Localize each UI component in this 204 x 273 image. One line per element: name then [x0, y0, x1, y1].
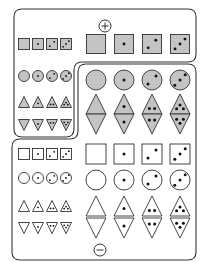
gray-small-circle-2-dots — [47, 71, 58, 82]
gray-small-tri-down-1-dots — [33, 120, 44, 131]
white-large-square-2-dots — [142, 144, 162, 164]
gray-large-tri-down-3-dots — [170, 114, 190, 134]
gray-large-circle-3-dots — [170, 70, 190, 90]
gray-small-tri-up-2-dots — [47, 97, 58, 108]
gray-large-circle-2-dots — [142, 70, 162, 90]
gray-large-circle-1-dots — [114, 70, 134, 90]
gray-small-tri-down-0-dots — [19, 120, 30, 131]
gray-large-tri-down-1-dots — [114, 114, 134, 134]
white-large-square-3-dots — [170, 144, 190, 164]
white-large-circle-1-dots — [114, 170, 134, 190]
gray-large-square-1-dots — [115, 35, 134, 54]
gray-large-tri-up-1-dots — [114, 94, 134, 114]
white-small-circle-3-dots — [61, 173, 72, 184]
white-large-square-0-dots — [86, 144, 106, 164]
minus-symbol-icon — [94, 244, 106, 256]
gray-small-square-2-dots — [47, 39, 58, 50]
white-small-tri-up-0-dots — [19, 201, 30, 212]
white-small-circle-2-dots — [47, 173, 58, 184]
gray-small-square-3-dots — [61, 39, 72, 50]
white-small-tri-up-3-dots — [61, 201, 72, 212]
white-large-tri-down-3-dots — [170, 218, 190, 238]
white-small-tri-down-1-dots — [33, 223, 44, 234]
gray-small-circle-0-dots — [19, 71, 30, 82]
white-large-circle-3-dots — [170, 170, 190, 190]
concept-diagram — [0, 0, 204, 273]
white-small-tri-down-0-dots — [19, 223, 30, 234]
white-small-tri-up-2-dots — [47, 201, 58, 212]
gray-large-square-0-dots — [87, 35, 106, 54]
white-small-tri-down-3-dots — [61, 223, 72, 234]
white-large-circle-2-dots — [142, 170, 162, 190]
white-large-tri-down-1-dots — [114, 218, 134, 238]
gray-small-tri-up-1-dots — [33, 97, 44, 108]
gray-small-tri-down-3-dots — [61, 120, 72, 131]
white-large-tri-down-2-dots — [142, 218, 162, 238]
white-small-square-3-dots — [61, 149, 72, 160]
gray-small-tri-up-3-dots — [61, 97, 72, 108]
gray-large-square-2-dots — [143, 35, 162, 54]
white-small-square-2-dots — [47, 149, 58, 160]
white-large-tri-up-2-dots — [142, 196, 162, 216]
gray-small-tri-up-0-dots — [19, 97, 30, 108]
shape-grid — [19, 35, 191, 239]
gray-small-circle-3-dots — [61, 71, 72, 82]
white-large-tri-down-0-dots — [86, 218, 106, 238]
gray-large-tri-down-0-dots — [86, 114, 106, 134]
white-small-square-1-dots — [33, 149, 44, 160]
white-large-square-1-dots — [114, 144, 134, 164]
white-small-square-0-dots — [19, 149, 30, 160]
white-large-circle-0-dots — [86, 170, 106, 190]
white-large-tri-up-3-dots — [170, 196, 190, 216]
gray-large-tri-up-0-dots — [86, 94, 106, 114]
white-large-tri-up-1-dots — [114, 196, 134, 216]
gray-large-tri-up-2-dots — [142, 94, 162, 114]
white-small-circle-0-dots — [19, 173, 30, 184]
white-large-tri-up-0-dots — [86, 196, 106, 216]
white-small-circle-1-dots — [33, 173, 44, 184]
gray-small-square-1-dots — [33, 39, 44, 50]
white-small-tri-down-2-dots — [47, 223, 58, 234]
gray-large-circle-0-dots — [86, 70, 106, 90]
gray-small-tri-down-2-dots — [47, 120, 58, 131]
gray-large-tri-down-2-dots — [142, 114, 162, 134]
gray-small-circle-1-dots — [33, 71, 44, 82]
gray-large-square-3-dots — [171, 35, 190, 54]
gray-small-square-0-dots — [19, 39, 30, 50]
plus-symbol-icon — [99, 20, 111, 32]
gray-large-tri-up-3-dots — [170, 94, 190, 114]
white-small-tri-up-1-dots — [33, 201, 44, 212]
